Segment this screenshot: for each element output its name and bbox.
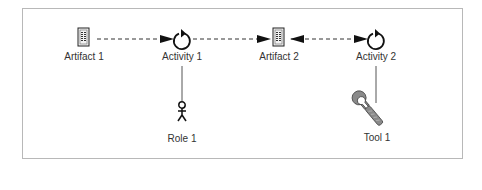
node-label-artifact1: Artifact 1 [64,51,103,62]
role-icon[interactable] [178,102,186,121]
node-label-role1: Role 1 [168,133,197,144]
node-label-activity1: Activity 1 [162,51,202,62]
wrench-icon[interactable] [349,88,386,129]
activity-icon[interactable] [174,29,190,49]
node-label-tool1: Tool 1 [364,132,391,143]
diagram-svg [0,0,482,190]
activity-icon[interactable] [368,29,384,49]
artifact-icon[interactable] [78,28,89,46]
node-label-artifact2: Artifact 2 [259,51,298,62]
artifact-icon[interactable] [273,28,284,46]
node-label-activity2: Activity 2 [356,51,396,62]
